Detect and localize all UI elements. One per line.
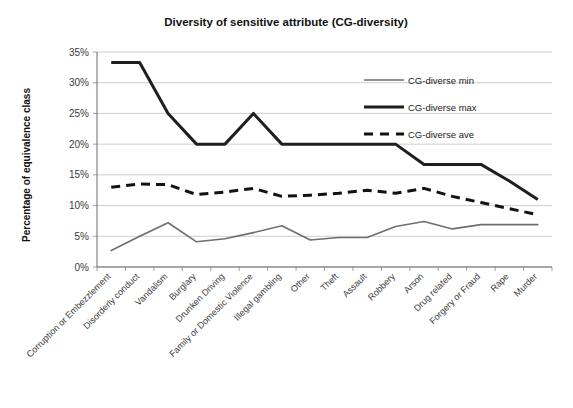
legend-label: CG-diverse min bbox=[408, 75, 474, 86]
series-lines bbox=[111, 62, 538, 250]
legend-item-ave[interactable]: CG-diverse ave bbox=[364, 129, 474, 140]
x-tick-label: Robbery bbox=[366, 271, 397, 302]
chart-legend: CG-diverse minCG-diverse maxCG-diverse a… bbox=[364, 75, 477, 140]
chart-title: Diversity of sensitive attribute (CG-div… bbox=[164, 16, 408, 28]
x-axis-tick-labels: Corruption or EmbezzlementDisorderly con… bbox=[25, 271, 540, 359]
series-line-ave bbox=[111, 184, 538, 215]
x-tick-label: Arson bbox=[402, 271, 426, 295]
y-axis-ticks bbox=[93, 52, 97, 267]
y-tick-label: 25% bbox=[69, 108, 89, 119]
y-tick-label: 30% bbox=[69, 77, 89, 88]
y-tick-label: 35% bbox=[69, 47, 89, 58]
gridlines bbox=[97, 52, 552, 267]
y-tick-label: 10% bbox=[69, 200, 89, 211]
y-tick-label: 0% bbox=[75, 262, 90, 273]
x-tick-label: Murder bbox=[512, 271, 539, 298]
x-tick-label: Assault bbox=[341, 271, 369, 299]
y-axis-title: Percentage of equivalence class bbox=[21, 88, 32, 242]
chart-container: Diversity of sensitive attribute (CG-div… bbox=[0, 0, 573, 408]
x-tick-label: Other bbox=[289, 271, 312, 294]
x-tick-label: Forgery or Fraud bbox=[427, 271, 482, 326]
y-tick-label: 15% bbox=[69, 169, 89, 180]
legend-item-min[interactable]: CG-diverse min bbox=[364, 75, 474, 86]
y-axis-tick-labels: 0%5%10%15%20%25%30%35% bbox=[69, 47, 89, 273]
legend-label: CG-diverse ave bbox=[408, 129, 474, 140]
x-tick-label: Rape bbox=[488, 271, 510, 293]
x-axis-ticks bbox=[97, 267, 552, 271]
y-tick-label: 5% bbox=[75, 231, 90, 242]
line-chart: Diversity of sensitive attribute (CG-div… bbox=[0, 0, 573, 408]
x-tick-label: Theft bbox=[319, 271, 341, 293]
y-tick-label: 20% bbox=[69, 139, 89, 150]
legend-label: CG-diverse max bbox=[408, 102, 477, 113]
legend-item-max[interactable]: CG-diverse max bbox=[364, 102, 477, 113]
